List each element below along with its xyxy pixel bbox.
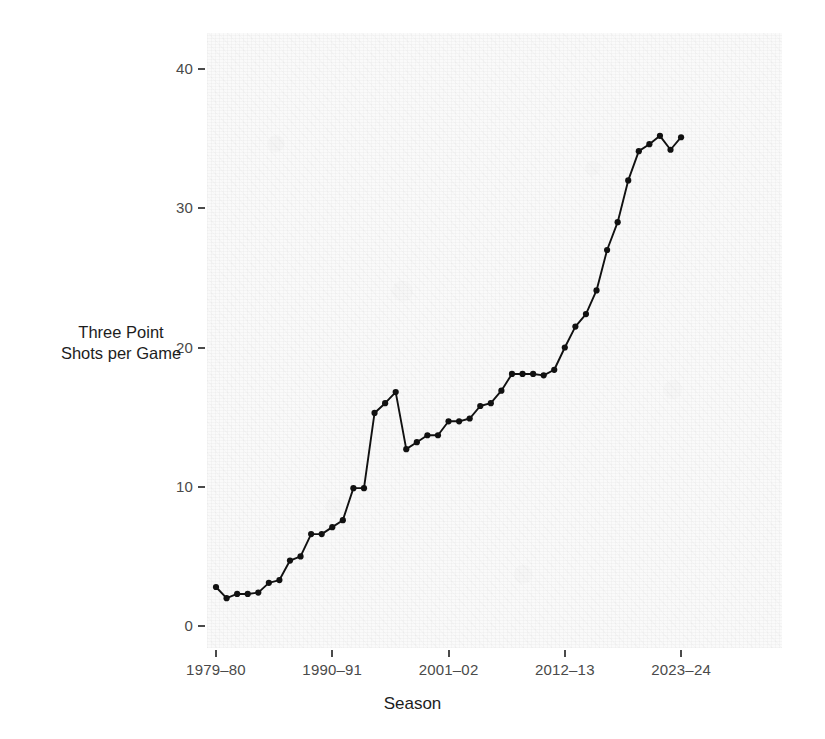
data-point: [604, 247, 610, 253]
data-point: [435, 432, 441, 438]
x-tick-label: 2012–13: [505, 661, 625, 678]
data-point: [234, 591, 240, 597]
series-markers: [213, 133, 684, 602]
data-point: [308, 531, 314, 537]
data-point: [498, 388, 504, 394]
y-axis-title-line-2: Shots per Game: [46, 343, 196, 364]
data-point: [213, 584, 219, 590]
data-point: [319, 531, 325, 537]
data-point: [530, 371, 536, 377]
data-point: [615, 219, 621, 225]
data-point: [678, 134, 684, 140]
y-axis-title: Three Point Shots per Game: [46, 322, 196, 364]
data-point: [340, 517, 346, 523]
data-point: [371, 410, 377, 416]
x-tick-mark: [564, 650, 566, 657]
data-point: [551, 367, 557, 373]
data-point: [509, 371, 515, 377]
data-point: [646, 141, 652, 147]
data-point: [636, 148, 642, 154]
data-point: [276, 577, 282, 583]
x-tick-mark: [331, 650, 333, 657]
data-point: [593, 287, 599, 293]
plot-panel: [207, 33, 782, 648]
y-tick-mark: [198, 207, 205, 209]
data-point: [583, 311, 589, 317]
data-point: [266, 580, 272, 586]
data-point: [403, 446, 409, 452]
data-point: [477, 403, 483, 409]
data-point: [297, 553, 303, 559]
y-tick-label: 40: [153, 60, 193, 77]
data-point: [287, 557, 293, 563]
data-point: [456, 418, 462, 424]
data-point: [245, 591, 251, 597]
series-three-point-shots-per-game: [207, 33, 782, 648]
y-tick-mark: [198, 347, 205, 349]
y-tick-mark: [198, 68, 205, 70]
data-point: [467, 415, 473, 421]
y-tick-mark: [198, 486, 205, 488]
chart-figure: 010203040 1979–801990–912001–022012–1320…: [0, 0, 825, 739]
data-point: [350, 485, 356, 491]
x-axis-title: Season: [0, 694, 825, 714]
data-point: [223, 595, 229, 601]
x-tick-mark: [215, 650, 217, 657]
data-point: [562, 344, 568, 350]
data-point: [541, 372, 547, 378]
data-point: [625, 177, 631, 183]
x-tick-label: 1979–80: [156, 661, 276, 678]
data-point: [329, 524, 335, 530]
y-axis-title-line-1: Three Point: [46, 322, 196, 343]
data-point: [657, 133, 663, 139]
x-tick-label: 2001–02: [389, 661, 509, 678]
x-tick-label: 2023–24: [621, 661, 741, 678]
x-tick-mark: [448, 650, 450, 657]
y-tick-mark: [198, 625, 205, 627]
data-point: [255, 589, 261, 595]
y-tick-label: 10: [153, 478, 193, 495]
data-point: [424, 432, 430, 438]
y-tick-label: 0: [153, 617, 193, 634]
series-line: [216, 136, 681, 598]
data-point: [393, 389, 399, 395]
data-point: [414, 439, 420, 445]
x-tick-label: 1990–91: [272, 661, 392, 678]
data-point: [488, 400, 494, 406]
data-point: [361, 485, 367, 491]
y-tick-label: 30: [153, 199, 193, 216]
data-point: [572, 324, 578, 330]
data-point: [382, 400, 388, 406]
x-tick-mark: [680, 650, 682, 657]
data-point: [519, 371, 525, 377]
data-point: [667, 147, 673, 153]
data-point: [445, 418, 451, 424]
